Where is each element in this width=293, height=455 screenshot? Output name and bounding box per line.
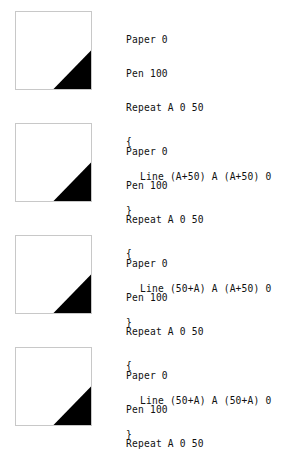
drawing-canvas <box>15 123 92 202</box>
code-block: Paper 0 Pen 100 Repeat A 0 50 { Line (A+… <box>126 347 271 455</box>
code-line-paper: Paper 0 <box>126 146 271 157</box>
code-line-paper: Paper 0 <box>126 370 271 381</box>
filled-triangle-icon <box>16 236 91 313</box>
filled-triangle-icon <box>16 348 91 425</box>
code-line-pen: Pen 100 <box>126 292 271 303</box>
drawing-canvas <box>15 235 92 314</box>
example-4: Paper 0 Pen 100 Repeat A 0 50 { Line (A+… <box>0 347 293 455</box>
code-line-repeat: Repeat A 0 50 <box>126 438 271 449</box>
code-line-repeat: Repeat A 0 50 <box>126 326 271 337</box>
code-line-pen: Pen 100 <box>126 68 271 79</box>
example-3: Paper 0 Pen 100 Repeat A 0 50 { Line (50… <box>0 235 293 347</box>
code-line-repeat: Repeat A 0 50 <box>126 214 271 225</box>
code-line-paper: Paper 0 <box>126 258 271 269</box>
code-line-repeat: Repeat A 0 50 <box>126 102 271 113</box>
filled-triangle-icon <box>16 124 91 201</box>
code-line-paper: Paper 0 <box>126 34 271 45</box>
drawing-canvas <box>15 347 92 426</box>
filled-triangle-icon <box>16 12 91 89</box>
code-line-pen: Pen 100 <box>126 180 271 191</box>
example-2: Paper 0 Pen 100 Repeat A 0 50 { Line (50… <box>0 123 293 235</box>
code-line-pen: Pen 100 <box>126 404 271 415</box>
drawing-canvas <box>15 11 92 90</box>
example-1: Paper 0 Pen 100 Repeat A 0 50 { Line (A+… <box>0 11 293 123</box>
